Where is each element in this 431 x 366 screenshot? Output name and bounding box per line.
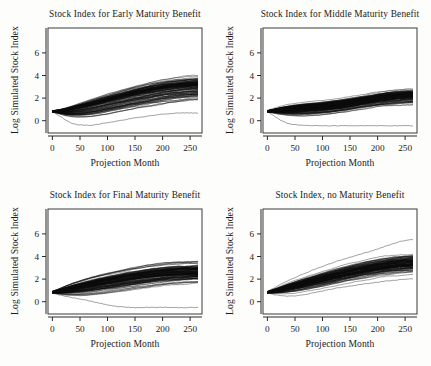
x-tick-150: 150 [128,324,142,334]
y-tick-2: 2 [249,274,254,284]
x-tick-200: 200 [156,324,170,334]
panel-early-maturity: Stock Index for Early Maturity Benefit 0… [0,0,215,183]
y-tick-0: 0 [249,297,254,307]
y-tick-0: 0 [34,116,39,126]
x-tick-50: 50 [75,324,85,334]
y-axis-label: Log Simulated Stock Index [224,207,235,315]
panel-title: Stock Index, no Maturity Benefit [276,190,405,200]
panel-middle-maturity: Stock Index for Middle Maturity Benefit … [215,0,430,183]
panel-no-maturity-svg: Stock Index, no Maturity Benefit 0 2 4 6 [215,181,430,364]
panel-title: Stock Index for Middle Maturity Benefit [261,9,420,19]
x-axis: 0 50 100 150 200 250 [263,136,417,153]
x-tick-0: 0 [50,324,55,334]
x-tick-0: 0 [50,143,55,153]
y-axis-label: Log Simulated Stock Index [9,207,20,315]
x-tick-150: 150 [343,324,357,334]
x-tick-150: 150 [128,143,142,153]
panel-early-maturity-svg: Stock Index for Early Maturity Benefit 0… [0,0,215,183]
plot-frame [263,28,417,133]
x-tick-250: 250 [183,143,197,153]
y-tick-4: 4 [34,252,39,262]
plot-area [48,28,202,133]
panel-title: Stock Index for Final Maturity Benefit [50,190,201,200]
y-axis: 0 2 4 6 [34,28,46,133]
y-axis-label: Log Simulated Stock Index [224,26,235,134]
x-tick-100: 100 [316,324,330,334]
y-axis: 0 2 4 6 [249,209,261,314]
x-axis-label: Projection Month [305,338,374,349]
x-tick-250: 250 [183,324,197,334]
y-tick-2: 2 [34,93,39,103]
y-tick-4: 4 [34,71,39,81]
x-axis: 0 50 100 150 200 250 [263,317,417,334]
panel-final-maturity: Stock Index for Final Maturity Benefit 0… [0,181,215,364]
y-tick-6: 6 [249,229,254,239]
x-tick-250: 250 [398,143,412,153]
y-tick-2: 2 [249,93,254,103]
x-axis-label: Projection Month [90,157,159,168]
x-tick-50: 50 [75,143,85,153]
x-axis-label: Projection Month [305,157,374,168]
plot-area [263,209,417,314]
y-tick-4: 4 [249,71,254,81]
x-tick-150: 150 [343,143,357,153]
y-tick-6: 6 [249,48,254,58]
x-axis-label: Projection Month [90,338,159,349]
y-axis: 0 2 4 6 [34,209,46,314]
panel-middle-maturity-svg: Stock Index for Middle Maturity Benefit … [215,0,430,183]
x-tick-200: 200 [156,143,170,153]
plot-frame [48,209,202,314]
plot-area [263,28,417,133]
x-tick-200: 200 [371,143,385,153]
figure-canvas: Stock Index for Early Maturity Benefit 0… [0,0,431,366]
x-tick-0: 0 [265,143,270,153]
y-tick-2: 2 [34,274,39,284]
x-tick-100: 100 [316,143,330,153]
x-tick-200: 200 [371,324,385,334]
y-tick-4: 4 [249,252,254,262]
x-tick-50: 50 [290,324,300,334]
panel-final-maturity-svg: Stock Index for Final Maturity Benefit 0… [0,181,215,364]
y-tick-0: 0 [249,116,254,126]
y-axis: 0 2 4 6 [249,28,261,133]
panel-title: Stock Index for Early Maturity Benefit [49,9,201,19]
x-tick-100: 100 [101,143,115,153]
y-tick-6: 6 [34,48,39,58]
y-axis-label: Log Simulated Stock Index [9,26,20,134]
y-tick-6: 6 [34,229,39,239]
x-axis: 0 50 100 150 200 250 [48,317,202,334]
x-tick-250: 250 [398,324,412,334]
x-tick-100: 100 [101,324,115,334]
x-axis: 0 50 100 150 200 250 [48,136,202,153]
plot-area [48,209,202,314]
x-tick-0: 0 [265,324,270,334]
x-tick-50: 50 [290,143,300,153]
y-tick-0: 0 [34,297,39,307]
panel-no-maturity: Stock Index, no Maturity Benefit 0 2 4 6 [215,181,430,364]
